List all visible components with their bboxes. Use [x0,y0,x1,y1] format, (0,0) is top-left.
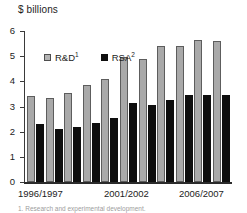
x-axis-label-0: 1996/1997 [18,188,63,199]
y-tick-3: 3 [20,107,24,108]
chart-page: $ billions 0123456 R&D1 RSA2 1996/199720… [0,0,247,213]
bar-rd [176,46,184,182]
y-tick-label-0: 0 [10,177,15,187]
legend-label-rsa: RSA2 [112,51,135,63]
legend-label-rd-text: R&D [55,52,75,63]
legend-label-rsa-text: RSA [112,52,132,63]
bar-rd [139,59,147,182]
x-axis-labels: 1996/19972001/20022006/2007 [0,188,247,202]
y-axis-title: $ billions [18,4,58,15]
bar-rd [101,79,109,182]
bar-rd [120,57,128,182]
legend-item-rd: R&D1 [44,51,79,63]
legend-label-rd-footnote-marker: 1 [75,51,79,58]
y-tick-2: 2 [20,132,24,133]
chart-footnote: 1. Research and experimental development… [18,205,146,212]
x-axis-line [24,182,232,184]
x-axis-label-1: 2001/2002 [104,188,149,199]
bar-rd [194,40,202,182]
y-tick-1: 1 [20,157,24,158]
bar-rd [83,85,91,182]
y-tick-label-2: 2 [10,127,15,137]
bar-rsa [73,127,81,182]
legend-label-rsa-footnote-marker: 2 [131,51,135,58]
bar-rsa [92,123,100,182]
y-tick-label-4: 4 [10,77,15,87]
y-tick-label-3: 3 [10,102,15,112]
bar-rsa [148,105,156,182]
legend-item-rsa: RSA2 [101,51,135,63]
bar-rd [64,93,72,182]
y-tick-6: 6 [20,31,24,32]
y-tick-0: 0 [20,182,24,183]
y-tick-4: 4 [20,81,24,82]
bar-group [27,31,44,182]
bar-rd [157,46,165,182]
bar-rd [27,96,35,182]
bar-group [176,31,193,182]
bar-rsa [222,95,230,182]
bar-rsa [110,118,118,182]
y-tick-label-5: 5 [10,51,15,61]
bar-rd [213,41,221,182]
y-tick-label-1: 1 [10,152,15,162]
bar-rd [46,98,54,182]
legend-swatch-rd-icon [44,54,51,61]
x-axis-label-2: 2006/2007 [179,188,224,199]
bar-rsa [36,124,44,182]
y-tick-5: 5 [20,56,24,57]
bar-group [139,31,156,182]
bar-group [194,31,211,182]
bar-rsa [185,95,193,182]
bar-group [213,31,230,182]
legend-label-rd: R&D1 [55,51,79,63]
bar-rsa [203,95,211,182]
bar-group [157,31,174,182]
legend-swatch-rsa-icon [101,54,108,61]
bar-rsa [166,100,174,182]
y-tick-label-6: 6 [10,26,15,36]
bar-rsa [55,129,63,182]
bar-rsa [129,103,137,182]
chart-legend: R&D1 RSA2 [44,51,135,63]
